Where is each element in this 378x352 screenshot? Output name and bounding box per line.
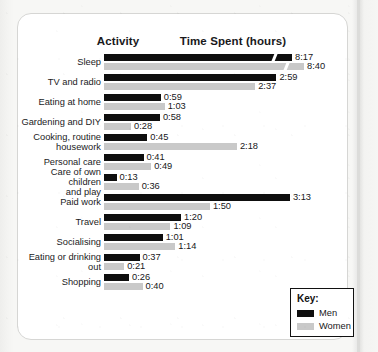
chart-row: TV and radio2:592:37 bbox=[18, 74, 349, 90]
bar-women bbox=[104, 143, 237, 150]
bar-line: 2:37 bbox=[104, 83, 349, 90]
bar-line: 2:18 bbox=[104, 143, 349, 150]
bar-women bbox=[104, 83, 255, 90]
bar-value-women: 0:28 bbox=[134, 121, 152, 132]
bar-men bbox=[104, 174, 117, 181]
chart-row: Sleep8:178:40 bbox=[18, 54, 349, 70]
row-bars: 0:370:21 bbox=[104, 254, 349, 270]
chart-row: Gardening and DIY0:580:28 bbox=[18, 114, 349, 130]
page-gutter bbox=[357, 0, 360, 352]
row-label-shopping: Shopping bbox=[18, 277, 101, 287]
bar-value-women: 0:36 bbox=[142, 181, 160, 192]
legend-key-box: Key: Men Women bbox=[290, 288, 354, 337]
row-label-gardening-and-diy: Gardening and DIY bbox=[18, 117, 101, 127]
chart-row: Travel1:201:09 bbox=[18, 214, 349, 230]
row-bars: 8:178:40 bbox=[104, 54, 349, 70]
row-bars: 0:591:03 bbox=[104, 94, 349, 110]
row-bars: 1:011:14 bbox=[104, 234, 349, 250]
bar-value-women: 1:50 bbox=[213, 201, 231, 212]
bar-line: 1:50 bbox=[104, 203, 349, 210]
bar-line: 0:28 bbox=[104, 123, 349, 130]
bar-women bbox=[104, 243, 175, 250]
bar-value-women: 0:21 bbox=[127, 261, 145, 272]
bar-men bbox=[104, 274, 129, 281]
bar-women bbox=[104, 63, 304, 70]
row-bars: 2:592:37 bbox=[104, 74, 349, 90]
legend-label-women: Women bbox=[319, 321, 351, 331]
bar-line: 0:26 bbox=[104, 274, 349, 281]
chart-row: Eating at home0:591:03 bbox=[18, 94, 349, 110]
bar-men bbox=[104, 234, 163, 241]
bar-line: 0:21 bbox=[104, 263, 349, 270]
chart-panel: Activity Time Spent (hours) Sleep8:178:4… bbox=[17, 13, 348, 340]
bar-men bbox=[104, 134, 147, 141]
bar-line: 0:58 bbox=[104, 114, 349, 121]
bar-women bbox=[104, 103, 165, 110]
bar-value-men: 0:37 bbox=[143, 252, 161, 263]
bar-line: 1:03 bbox=[104, 103, 349, 110]
bar-value-women: 0:49 bbox=[154, 161, 172, 172]
bar-value-men: 3:13 bbox=[293, 192, 311, 203]
row-label-care-of-own-children: Care of own children and play bbox=[18, 167, 101, 198]
bar-line: 1:20 bbox=[104, 214, 349, 221]
row-bars: 0:130:36 bbox=[104, 174, 349, 190]
row-label-cooking-routine: Cooking, routine housework bbox=[18, 132, 101, 152]
row-bars: 0:452:18 bbox=[104, 134, 349, 150]
bar-line: 1:09 bbox=[104, 223, 349, 230]
bar-line: 3:13 bbox=[104, 194, 349, 201]
bar-line: 0:41 bbox=[104, 154, 349, 161]
row-label-sleep: Sleep bbox=[18, 57, 101, 67]
legend-label-men: Men bbox=[319, 308, 337, 318]
bar-value-men: 0:58 bbox=[163, 112, 181, 123]
bar-men bbox=[104, 54, 292, 61]
chart-row: Eating or drinking out0:370:21 bbox=[18, 254, 349, 270]
bar-value-men: 0:45 bbox=[150, 132, 168, 143]
legend-item-men: Men bbox=[297, 308, 348, 318]
column-header-time-spent: Time Spent (hours) bbox=[138, 35, 328, 47]
bar-line: 0:45 bbox=[104, 134, 349, 141]
row-label-eating-or-drinking-out: Eating or drinking out bbox=[18, 252, 101, 272]
bar-men bbox=[104, 154, 144, 161]
bar-men bbox=[104, 114, 160, 121]
bar-women bbox=[104, 283, 143, 290]
chart-row: Cooking, routine housework0:452:18 bbox=[18, 134, 349, 150]
bar-line: 1:14 bbox=[104, 243, 349, 250]
bar-women bbox=[104, 183, 139, 190]
bar-line: 0:59 bbox=[104, 94, 349, 101]
bar-women bbox=[104, 203, 210, 210]
bar-line: 1:01 bbox=[104, 234, 349, 241]
bar-men bbox=[104, 94, 161, 101]
bar-men bbox=[104, 74, 276, 81]
bar-men bbox=[104, 194, 290, 201]
bar-line: 8:40 bbox=[104, 63, 349, 70]
chart-row: Socialising1:011:14 bbox=[18, 234, 349, 250]
women-swatch-icon bbox=[297, 323, 314, 330]
bar-value-women: 2:18 bbox=[240, 141, 258, 152]
bar-line: 0:13 bbox=[104, 174, 349, 181]
bar-value-women: 1:03 bbox=[168, 101, 186, 112]
chart-row: Care of own children and play0:130:36 bbox=[18, 174, 349, 190]
bar-men bbox=[104, 254, 140, 261]
legend-item-women: Women bbox=[297, 321, 348, 331]
bar-value-women: 8:40 bbox=[307, 61, 325, 72]
men-swatch-icon bbox=[297, 310, 314, 317]
bar-line: 8:17 bbox=[104, 54, 349, 61]
row-label-paid-work: Paid work bbox=[18, 197, 101, 207]
bar-line: 0:36 bbox=[104, 183, 349, 190]
bar-line: 0:37 bbox=[104, 254, 349, 261]
bar-women bbox=[104, 123, 131, 130]
row-label-tv-and-radio: TV and radio bbox=[18, 77, 101, 87]
row-bars: 0:580:28 bbox=[104, 114, 349, 130]
page-background: Activity Time Spent (hours) Sleep8:178:4… bbox=[0, 0, 378, 352]
bar-value-men: 2:59 bbox=[279, 72, 297, 83]
row-label-travel: Travel bbox=[18, 217, 101, 227]
row-bars: 1:201:09 bbox=[104, 214, 349, 230]
bar-men bbox=[104, 214, 181, 221]
bar-women bbox=[104, 223, 170, 230]
bar-women bbox=[104, 163, 151, 170]
row-bars: 0:410:49 bbox=[104, 154, 349, 170]
legend-title: Key: bbox=[297, 293, 348, 304]
bar-value-women: 0:40 bbox=[146, 281, 164, 292]
row-label-eating-at-home: Eating at home bbox=[18, 97, 101, 107]
bar-line: 2:59 bbox=[104, 74, 349, 81]
